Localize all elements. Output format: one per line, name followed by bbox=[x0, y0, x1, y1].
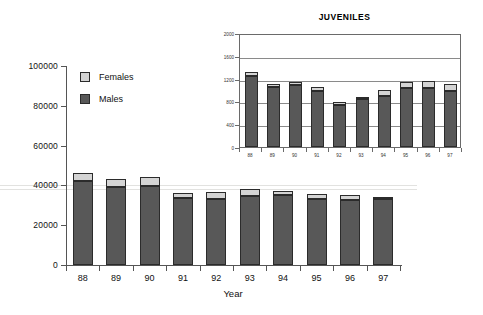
inset-bar-segment-females bbox=[289, 82, 302, 85]
main-x-tick bbox=[233, 266, 234, 271]
inset-bar-segment-females bbox=[245, 72, 258, 77]
main-y-tick-label: 100000 bbox=[28, 61, 58, 71]
inset-y-tick-label: 400 bbox=[217, 123, 234, 128]
legend-label: Males bbox=[99, 94, 123, 104]
main-bar-segment-females bbox=[340, 195, 360, 200]
main-x-tick-label: 97 bbox=[378, 273, 388, 283]
inset-y-tick bbox=[235, 34, 239, 35]
legend-item: Males bbox=[80, 90, 190, 108]
main-x-tick-label: 91 bbox=[178, 273, 188, 283]
inset-x-tick bbox=[350, 148, 351, 152]
inset-bar-segment-males bbox=[378, 96, 391, 147]
main-x-tick-label: 89 bbox=[111, 273, 121, 283]
main-bar-segment-males bbox=[106, 187, 126, 265]
main-bar-segment-males bbox=[240, 196, 260, 265]
inset-bar-segment-females bbox=[378, 90, 391, 96]
main-x-tick-label: 93 bbox=[245, 273, 255, 283]
inset-x-tick-label: 96 bbox=[425, 153, 430, 158]
inset-bar-segment-males bbox=[289, 85, 302, 147]
inset-y-tick-label: 2000 bbox=[217, 32, 234, 37]
legend-item: Females bbox=[80, 68, 190, 86]
main-y-tick-label: 0 bbox=[53, 260, 58, 270]
inset-x-tick-label: 90 bbox=[292, 153, 297, 158]
inset-bar-segment-females bbox=[422, 81, 435, 88]
inset-bar bbox=[422, 81, 435, 147]
inset-x-tick bbox=[306, 148, 307, 152]
main-bar bbox=[173, 193, 193, 265]
inset-bar bbox=[400, 82, 413, 147]
main-y-tick-label: 40000 bbox=[33, 180, 58, 190]
main-bar bbox=[273, 191, 293, 265]
inset-y-tick-label: 800 bbox=[217, 100, 234, 105]
main-x-tick bbox=[66, 266, 67, 271]
main-y-tick-label: 80000 bbox=[33, 101, 58, 111]
inset-bar bbox=[356, 98, 369, 147]
main-x-axis-line bbox=[66, 265, 402, 266]
inset-bar bbox=[444, 84, 457, 147]
inset-x-tick bbox=[328, 148, 329, 152]
main-x-tick bbox=[99, 266, 100, 271]
main-bar bbox=[240, 189, 260, 265]
inset-bar-segment-males bbox=[400, 88, 413, 147]
main-x-tick-label: 88 bbox=[78, 273, 88, 283]
inset-y-tick-label: 1200 bbox=[217, 77, 234, 82]
main-y-tick-label: 20000 bbox=[33, 220, 58, 230]
main-bar bbox=[206, 192, 226, 265]
main-bar-segment-males bbox=[273, 195, 293, 265]
main-x-tick bbox=[166, 266, 167, 271]
chart-legend: FemalesMales bbox=[80, 68, 190, 112]
main-x-tick bbox=[333, 266, 334, 271]
inset-bar bbox=[378, 90, 391, 147]
main-bar bbox=[140, 177, 160, 265]
main-bar-segment-females bbox=[273, 191, 293, 195]
main-bar bbox=[373, 197, 393, 265]
inset-x-tick bbox=[261, 148, 262, 152]
legend-label: Females bbox=[99, 72, 134, 82]
inset-bar bbox=[311, 87, 324, 147]
inset-y-tick bbox=[235, 57, 239, 58]
inset-y-tick bbox=[235, 125, 239, 126]
main-bar-segment-males bbox=[206, 199, 226, 265]
inset-bar bbox=[289, 82, 302, 147]
main-x-tick-label: 95 bbox=[311, 273, 321, 283]
inset-bar-segment-females bbox=[356, 97, 369, 99]
inset-y-tick bbox=[235, 80, 239, 81]
inset-bar-segment-females bbox=[444, 84, 457, 91]
inset-x-tick bbox=[439, 148, 440, 152]
main-x-axis-title: Year bbox=[150, 288, 316, 299]
main-x-tick-label: 94 bbox=[278, 273, 288, 283]
inset-bar bbox=[245, 72, 258, 147]
inset-bar bbox=[267, 84, 280, 147]
inset-y-tick-label: 1600 bbox=[217, 54, 234, 59]
inset-gridline bbox=[240, 58, 460, 59]
legend-swatch-females bbox=[80, 72, 90, 82]
inset-x-tick-label: 91 bbox=[314, 153, 319, 158]
inset-bar-segment-females bbox=[400, 82, 413, 88]
main-x-tick bbox=[400, 266, 401, 271]
main-bar-segment-females bbox=[307, 194, 327, 199]
main-bar-segment-males bbox=[73, 181, 93, 265]
main-bar-segment-males bbox=[373, 199, 393, 265]
inset-plot-area bbox=[239, 34, 461, 148]
main-bar bbox=[106, 179, 126, 265]
main-bar-segment-females bbox=[206, 192, 226, 199]
main-bar bbox=[340, 195, 360, 265]
main-bar-segment-females bbox=[173, 193, 193, 198]
main-bar-segment-males bbox=[340, 200, 360, 265]
inset-x-tick-label: 94 bbox=[381, 153, 386, 158]
inset-bar-segment-males bbox=[245, 76, 258, 147]
inset-bar-chart-juveniles: JUVENILES 0400800120016002000 8889909192… bbox=[217, 8, 472, 163]
inset-bar-segment-females bbox=[333, 102, 346, 105]
figure-canvas: 020000400006000080000100000 888990919293… bbox=[0, 0, 483, 315]
main-bar-segment-females bbox=[373, 197, 393, 199]
inset-x-tick bbox=[372, 148, 373, 152]
inset-y-tick bbox=[235, 102, 239, 103]
legend-swatch-males bbox=[80, 94, 90, 104]
inset-bar-segment-males bbox=[267, 87, 280, 147]
main-bar-segment-females bbox=[240, 189, 260, 196]
inset-bar-segment-females bbox=[311, 87, 324, 91]
inset-x-tick bbox=[417, 148, 418, 152]
inset-bar-segment-males bbox=[422, 88, 435, 147]
inset-x-tick bbox=[394, 148, 395, 152]
inset-x-tick-label: 89 bbox=[270, 153, 275, 158]
